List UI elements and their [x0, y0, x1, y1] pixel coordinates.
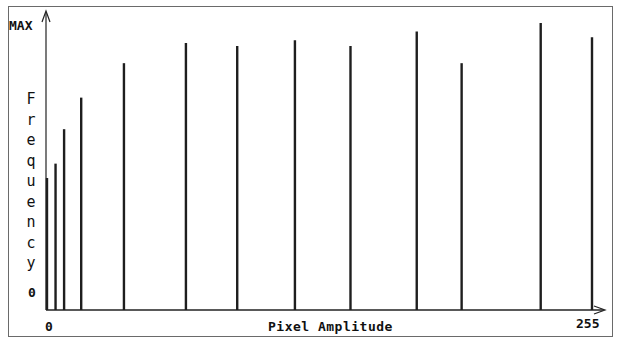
y-axis-title: Frequency — [24, 89, 38, 274]
histogram-bars — [47, 23, 592, 310]
y-max-label: MAX — [9, 19, 32, 32]
y-axis-title-letter: e — [24, 192, 38, 213]
x-zero-label: 0 — [45, 320, 53, 333]
x-axis-title: Pixel Amplitude — [268, 320, 393, 333]
y-axis-title-letter: r — [24, 110, 38, 131]
y-axis-title-letter: q — [24, 151, 38, 172]
y-axis-title-letter: y — [24, 253, 38, 274]
x-max-label: 255 — [576, 317, 599, 330]
y-axis-title-letter: e — [24, 130, 38, 151]
y-axis-title-letter: c — [24, 233, 38, 254]
y-axis-title-letter: F — [24, 89, 38, 110]
histogram-plot — [0, 0, 624, 344]
y-axis-title-letter: n — [24, 212, 38, 233]
y-zero-label: 0 — [28, 286, 36, 299]
y-axis-title-letter: u — [24, 171, 38, 192]
